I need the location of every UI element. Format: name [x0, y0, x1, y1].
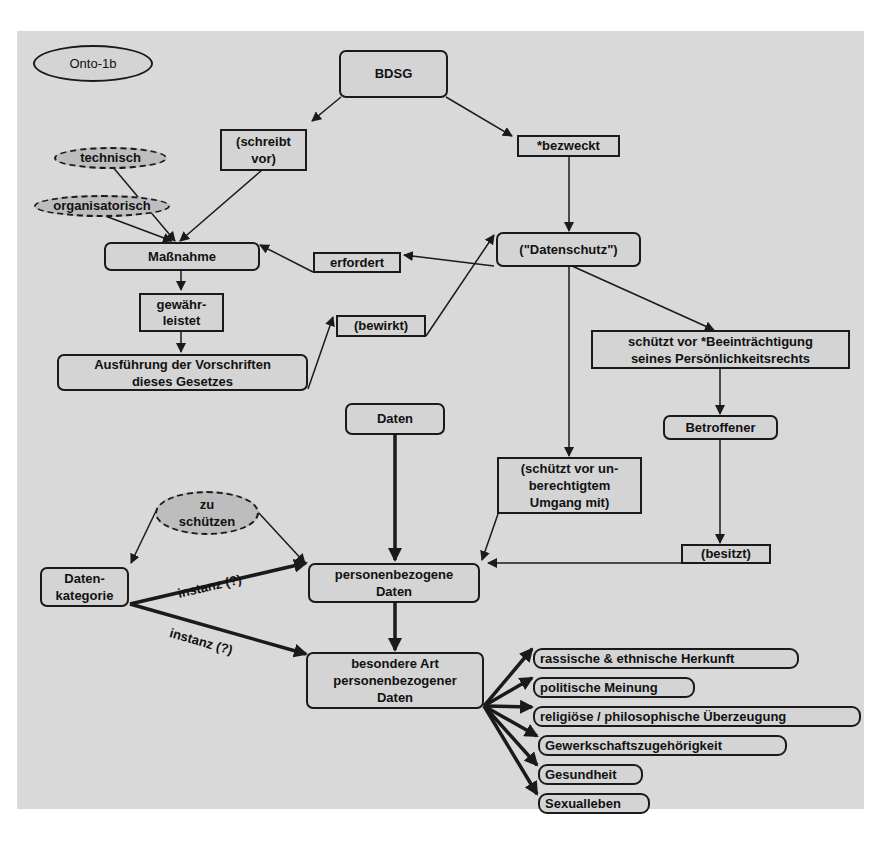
node-label: Gewerkschaftszugehörigkeit	[545, 737, 722, 755]
node-schreibt-vor[interactable]: (schreibt vor)	[220, 129, 307, 171]
diagram-title-oval: Onto-1b	[33, 45, 153, 82]
node-daten[interactable]: Daten	[345, 403, 445, 435]
node-erfordert[interactable]: erfordert	[313, 252, 401, 273]
node-schuetzt-vor-beeintraechtigung[interactable]: schützt vor *Beeinträchtigung seines Per…	[591, 330, 850, 369]
node-label: ("Datenschutz")	[519, 241, 617, 259]
node-datenkategorie[interactable]: Daten- kategorie	[40, 567, 129, 607]
node-label: personenbezogene Daten	[335, 566, 453, 600]
node-label: BDSG	[375, 65, 413, 83]
node-besitzt[interactable]: (besitzt)	[681, 544, 771, 564]
node-label: Betroffener	[685, 419, 755, 437]
node-label: gewähr- leistet	[157, 297, 207, 329]
node-bdsg[interactable]: BDSG	[339, 50, 448, 98]
node-organisatorisch[interactable]: organisatorisch	[34, 195, 170, 217]
node-label: Daten- kategorie	[56, 570, 114, 604]
node-category-gewerkschaft[interactable]: Gewerkschaftszugehörigkeit	[538, 735, 787, 756]
diagram-title: Onto-1b	[70, 55, 117, 73]
node-category-gesundheit[interactable]: Gesundheit	[538, 764, 643, 785]
node-schuetzt-vor-unberechtigtem[interactable]: (schützt vor un- berechtigtem Umgang mit…	[497, 457, 642, 514]
node-label: religiöse / philosophische Überzeugung	[540, 708, 786, 726]
node-besondere-art[interactable]: besondere Art personenbezogener Daten	[306, 652, 484, 709]
node-technisch[interactable]: technisch	[54, 147, 167, 169]
node-label: erfordert	[330, 254, 384, 272]
node-label: Daten	[377, 410, 413, 428]
node-datenschutz[interactable]: ("Datenschutz")	[496, 232, 641, 267]
node-ausfuehrung[interactable]: Ausführung der Vorschriften dieses Geset…	[57, 354, 308, 391]
node-label: zu schützen	[179, 496, 235, 530]
node-gewaehrleistet[interactable]: gewähr- leistet	[139, 293, 224, 332]
node-category-sexualleben[interactable]: Sexualleben	[538, 793, 650, 814]
node-label: schützt vor *Beeinträchtigung seines Per…	[628, 333, 813, 367]
node-betroffener[interactable]: Betroffener	[663, 415, 778, 440]
node-label: besondere Art personenbezogener Daten	[333, 655, 457, 706]
node-category-religion[interactable]: religiöse / philosophische Überzeugung	[533, 706, 861, 727]
node-label: organisatorisch	[53, 197, 151, 215]
node-massnahme[interactable]: Maßnahme	[104, 242, 260, 271]
node-category-politik[interactable]: politische Meinung	[533, 677, 695, 698]
node-category-herkunft[interactable]: rassische & ethnische Herkunft	[533, 648, 799, 669]
node-label: Sexualleben	[545, 795, 621, 813]
node-label: technisch	[80, 149, 141, 167]
node-label: rassische & ethnische Herkunft	[540, 650, 734, 668]
node-label: Maßnahme	[148, 248, 216, 266]
node-label: (schützt vor un- berechtigtem Umgang mit…	[521, 460, 619, 511]
node-personenbezogene-daten[interactable]: personenbezogene Daten	[308, 563, 480, 603]
node-label: Ausführung der Vorschriften dieses Geset…	[94, 356, 271, 390]
node-zu-schuetzen[interactable]: zu schützen	[155, 491, 259, 535]
node-label: politische Meinung	[540, 679, 658, 697]
node-label: (bewirkt)	[354, 317, 408, 335]
node-label: Gesundheit	[545, 766, 617, 784]
node-bezweckt[interactable]: *bezweckt	[517, 135, 620, 157]
node-label: *bezweckt	[537, 137, 600, 155]
node-label: (schreibt vor)	[236, 133, 291, 167]
node-label: (besitzt)	[701, 545, 751, 563]
node-bewirkt[interactable]: (bewirkt)	[336, 315, 426, 337]
